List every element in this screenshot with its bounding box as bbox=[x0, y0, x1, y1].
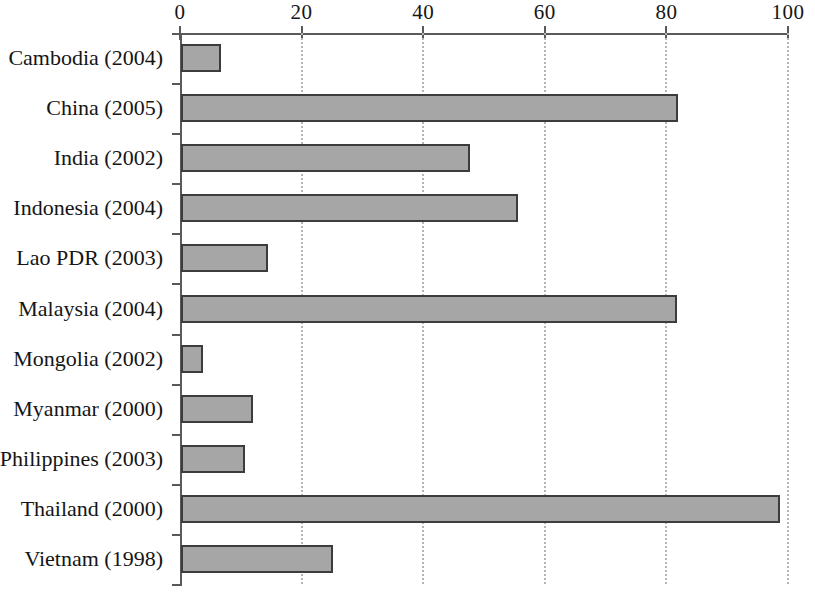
category-label: Myanmar (2000) bbox=[0, 398, 172, 420]
y-axis-tick bbox=[172, 434, 182, 436]
bar-chart: 020406080100 Cambodia (2004)China (2005)… bbox=[0, 0, 815, 596]
x-axis-tick-label: 80 bbox=[655, 2, 677, 23]
y-axis-tick bbox=[172, 133, 182, 135]
category-label: Philippines (2003) bbox=[0, 448, 172, 470]
bar bbox=[181, 144, 470, 172]
y-axis-tick bbox=[172, 534, 182, 536]
x-axis-tick-label: 0 bbox=[175, 2, 186, 23]
y-axis-tick bbox=[172, 384, 182, 386]
bar bbox=[181, 495, 780, 523]
y-axis-tick bbox=[172, 484, 182, 486]
category-label: Malaysia (2004) bbox=[0, 298, 172, 320]
bar bbox=[181, 545, 333, 573]
category-label: Mongolia (2002) bbox=[0, 348, 172, 370]
y-axis-tick bbox=[172, 183, 182, 185]
bar bbox=[181, 94, 678, 122]
category-label: Cambodia (2004) bbox=[0, 47, 172, 69]
y-axis-tick bbox=[172, 334, 182, 336]
bar bbox=[181, 244, 268, 272]
bar bbox=[181, 445, 245, 473]
category-label: Lao PDR (2003) bbox=[0, 247, 172, 269]
gridline bbox=[787, 33, 789, 584]
x-axis-tick-label: 40 bbox=[412, 2, 434, 23]
bar bbox=[181, 395, 253, 423]
y-axis-tick bbox=[172, 283, 182, 285]
x-axis-tick-label: 60 bbox=[534, 2, 556, 23]
bar bbox=[181, 194, 518, 222]
y-axis-tick bbox=[172, 83, 182, 85]
category-label: China (2005) bbox=[0, 97, 172, 119]
y-axis-tick bbox=[172, 233, 182, 235]
y-axis-tick bbox=[172, 33, 182, 35]
bar bbox=[181, 44, 221, 72]
bar bbox=[181, 345, 203, 373]
category-label: India (2002) bbox=[0, 147, 172, 169]
bar bbox=[181, 295, 677, 323]
x-axis-tick-label: 20 bbox=[291, 2, 313, 23]
category-label: Thailand (2000) bbox=[0, 498, 172, 520]
y-axis-tick bbox=[172, 584, 182, 586]
category-label: Vietnam (1998) bbox=[0, 548, 172, 570]
category-label: Indonesia (2004) bbox=[0, 197, 172, 219]
x-axis-tick-label: 100 bbox=[772, 2, 805, 23]
